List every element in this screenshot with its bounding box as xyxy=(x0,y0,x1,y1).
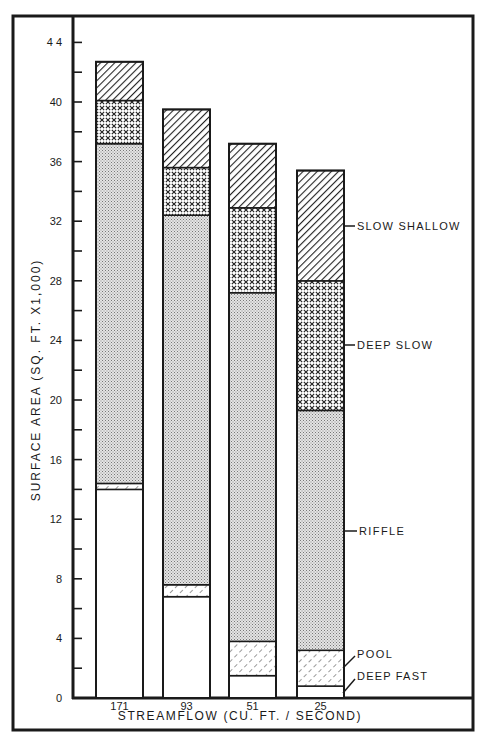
bar-segment-pool xyxy=(229,641,276,675)
bar-segment-pool xyxy=(163,585,210,597)
bar-segment-deep-slow xyxy=(163,168,210,216)
y-tick-label: 40 xyxy=(50,96,62,108)
y-tick-label: 36 xyxy=(50,156,62,168)
y-tick-label: 12 xyxy=(50,513,62,525)
legend-label-riffle: RIFFLE xyxy=(359,525,405,537)
y-tick-label: 24 xyxy=(50,334,62,346)
bar-segment-riffle xyxy=(229,293,276,642)
y-tick-label: 0 xyxy=(56,692,62,704)
bar-segment-pool xyxy=(297,650,344,686)
y-tick-label: 8 xyxy=(56,573,62,585)
bar-segment-riffle xyxy=(96,144,143,484)
y-tick-label: 20 xyxy=(50,394,62,406)
legend-label-deep-fast: DEEP FAST xyxy=(357,670,428,682)
bar-segment-deep-slow xyxy=(96,101,143,144)
bar-segment-slow-shallow xyxy=(163,109,210,167)
legend-label-deep-slow: DEEP SLOW xyxy=(357,339,433,351)
bar-segment-riffle xyxy=(297,410,344,650)
stacked-bar-chart: 04812162024283236404 4 171935125 STREAMF… xyxy=(0,0,487,740)
x-axis-title: STREAMFLOW (CU. FT. / SECOND) xyxy=(118,709,362,723)
bar-segment-deep-slow xyxy=(229,208,276,293)
bar-segment-deep-fast xyxy=(229,676,276,698)
bar-25 xyxy=(297,171,344,698)
bar-segment-deep-fast xyxy=(96,489,143,698)
y-tick-label: 4 xyxy=(56,632,62,644)
bar-93 xyxy=(163,109,210,698)
y-tick-label: 16 xyxy=(50,454,62,466)
bar-segment-slow-shallow xyxy=(229,144,276,208)
bar-segment-deep-fast xyxy=(297,686,344,698)
bar-segment-riffle xyxy=(163,215,210,585)
y-tick-label: 32 xyxy=(50,215,62,227)
bar-segment-deep-slow xyxy=(297,281,344,411)
y-tick-label: 4 4 xyxy=(47,36,62,48)
bar-segment-deep-fast xyxy=(163,597,210,698)
bar-segment-slow-shallow xyxy=(96,62,143,101)
y-tick-label: 28 xyxy=(50,275,62,287)
y-axis-title: SURFACE AREA (SQ. FT. X1,000) xyxy=(29,259,43,502)
bar-171 xyxy=(96,62,143,698)
legend-label-slow-shallow: SLOW SHALLOW xyxy=(357,220,461,232)
bar-segment-slow-shallow xyxy=(297,171,344,281)
bar-segment-pool xyxy=(96,483,143,489)
legend-label-pool: POOL xyxy=(357,648,393,660)
bar-51 xyxy=(229,144,276,698)
